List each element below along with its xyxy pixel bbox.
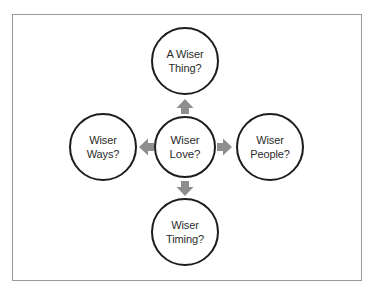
node-wiser-love[interactable]: Wiser Love? [155, 117, 215, 177]
node-wiser-love-label-line1: Wiser [171, 134, 200, 146]
node-a-wiser-thing-label-line2: Thing? [168, 62, 201, 74]
node-wiser-ways-label-line2: Ways? [87, 148, 120, 160]
node-wiser-people-label-line1: Wiser [256, 134, 284, 146]
arrow-down-icon [177, 181, 194, 196]
hub-and-spoke-diagram: A Wiser Thing? Wiser Ways? Wiser Love? W… [0, 0, 374, 292]
node-wiser-love-circle[interactable] [155, 117, 215, 177]
node-wiser-ways[interactable]: Wiser Ways? [70, 114, 136, 180]
node-wiser-ways-label-line1: Wiser [89, 134, 117, 146]
node-wiser-people[interactable]: Wiser People? [237, 114, 303, 180]
arrow-right-icon [217, 139, 232, 156]
node-wiser-timing-label-line2: Timing? [166, 233, 204, 245]
node-a-wiser-thing-label-line1: A Wiser [166, 48, 204, 60]
node-wiser-timing[interactable]: Wiser Timing? [152, 199, 218, 265]
node-wiser-love-label-line2: Love? [170, 148, 201, 160]
node-a-wiser-thing[interactable]: A Wiser Thing? [152, 28, 218, 94]
node-wiser-people-label-line2: People? [250, 148, 290, 160]
node-wiser-timing-label-line1: Wiser [171, 219, 199, 231]
arrow-up-icon [177, 99, 194, 114]
diagram-canvas: A Wiser Thing? Wiser Ways? Wiser Love? W… [0, 0, 374, 292]
arrow-left-icon [139, 139, 154, 156]
